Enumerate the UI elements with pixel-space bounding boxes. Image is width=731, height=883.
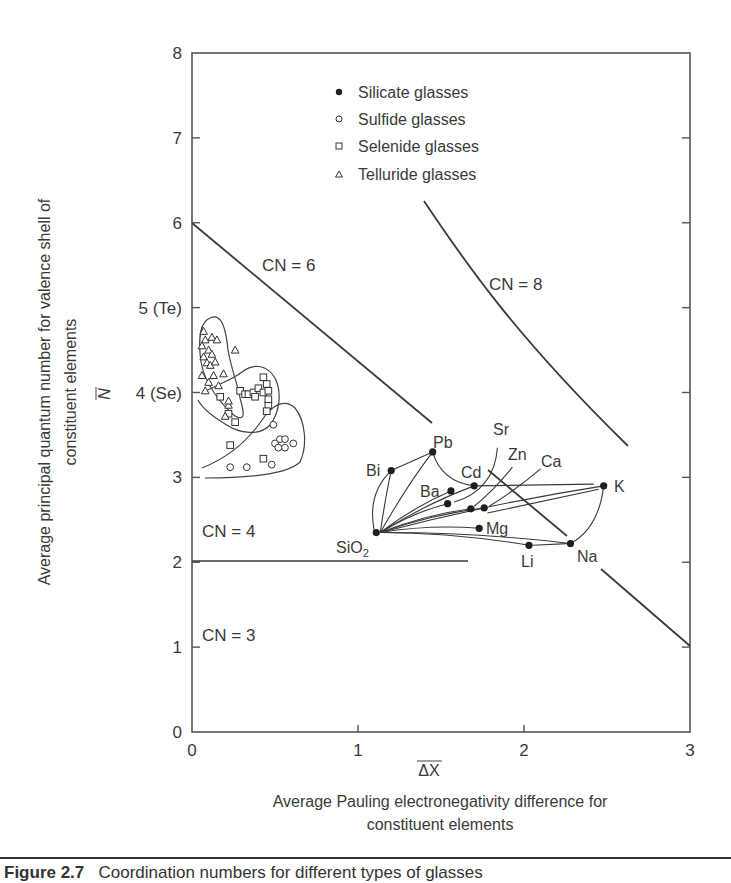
y-tick-label: 8 (173, 44, 182, 63)
y-tick-label: 1 (173, 638, 182, 657)
label-zn: Zn (508, 446, 527, 463)
x-axis-title-line2: constituent elements (367, 816, 514, 833)
region-label-cn6: CN = 6 (262, 256, 315, 275)
legend-label-sulfide: Sulfide glasses (358, 111, 466, 128)
marker-selenide (263, 408, 270, 415)
marker-selenide (227, 442, 234, 449)
x-axis-symbol: ΔX (418, 762, 440, 779)
label-li: Li (521, 553, 533, 570)
y-tick-label: 4 (Se) (136, 384, 182, 403)
marker-selenide (260, 455, 267, 462)
marker-silicate (444, 500, 451, 507)
marker-silicate (476, 525, 483, 532)
marker-silicate (388, 467, 395, 474)
label-sio2: SiO2 (336, 539, 369, 559)
region-labels: CN = 6 CN = 8 CN = 4 CN = 3 (202, 256, 542, 645)
marker-selenide (252, 393, 259, 400)
label-cd: Cd (461, 464, 481, 481)
marker-telluride (220, 370, 228, 377)
region-label-cn3: CN = 3 (202, 626, 255, 645)
marker-sulfide (268, 461, 275, 468)
marker-silicate (373, 529, 380, 536)
y-tick-label: 7 (173, 129, 182, 148)
caption-label: Figure 2.7 (4, 863, 84, 882)
marker-telluride (211, 358, 219, 365)
x-tick-label: 0 (187, 741, 196, 760)
marker-telluride (231, 346, 239, 353)
label-ca: Ca (541, 453, 562, 470)
marker-sulfide (275, 444, 282, 451)
marker-silicate (447, 487, 454, 494)
legend-label-telluride: Telluride glasses (358, 166, 476, 183)
marker-telluride (225, 397, 233, 404)
label-sr: Sr (493, 421, 510, 438)
caption-text: Coordination numbers for different types… (98, 863, 482, 882)
marker-silicate (525, 542, 532, 549)
marker-selenide (260, 374, 267, 381)
label-ba: Ba (420, 483, 440, 500)
marker-sulfide (282, 444, 289, 451)
y-tick-label: 6 (173, 214, 182, 233)
y-axis-title: Average principal quantum number for val… (36, 198, 113, 585)
legend: Silicate glasses Sulfide glasses Selenid… (336, 84, 479, 183)
connector-curve (391, 452, 433, 471)
connector-curve (474, 484, 594, 486)
marker-selenide (265, 388, 272, 395)
legend-marker-silicate (336, 89, 342, 95)
marker-selenide (263, 381, 270, 388)
x-tick-label: 1 (353, 741, 362, 760)
legend-marker-selenide (336, 143, 342, 149)
sulfide-envelope (202, 403, 305, 478)
y-tick-label: 0 (173, 723, 182, 742)
x-tick-label: 3 (685, 741, 694, 760)
legend-marker-sulfide (336, 116, 342, 122)
label-pb: Pb (433, 434, 453, 451)
boundary-cn6-cn4-tail (601, 569, 690, 646)
y-tick-label: 2 (173, 553, 182, 572)
marker-telluride (210, 372, 218, 379)
label-bi: Bi (366, 462, 380, 479)
connector-curve (489, 469, 540, 506)
marker-silicate (567, 540, 574, 547)
marker-silicate (467, 505, 474, 512)
y-tick-label: 3 (173, 468, 182, 487)
x-tick-label: 2 (519, 741, 528, 760)
marker-telluride (215, 382, 223, 389)
marker-silicate (471, 482, 478, 489)
boundary-cn6-cn4-upper (192, 223, 432, 423)
y-axis-title-line2: constituent elements (62, 319, 79, 466)
marker-sulfide (290, 440, 297, 447)
x-axis-title-line1: Average Pauling electronegativity differ… (273, 793, 608, 810)
label-mg: Mg (486, 520, 508, 537)
marker-sulfide (270, 421, 277, 428)
marker-selenide (217, 393, 224, 400)
legend-marker-telluride (336, 171, 343, 177)
y-tick-label: 5 (Te) (139, 299, 182, 318)
legend-label-selenide: Selenide glasses (358, 138, 479, 155)
y-axis-title-line1: Average principal quantum number for val… (36, 198, 53, 585)
marker-sulfide (282, 436, 289, 443)
figure-caption: Figure 2.7 Coordination numbers for diff… (4, 863, 483, 883)
marker-silicate (600, 482, 607, 489)
connector-curve (487, 489, 598, 513)
y-axis-symbol: N (96, 388, 113, 400)
label-k: K (614, 478, 625, 495)
region-label-cn8: CN = 8 (489, 275, 542, 294)
boundary-cn8-cn6 (424, 201, 628, 446)
marker-silicate (481, 504, 488, 511)
region-label-cn4: CN = 4 (202, 522, 255, 541)
marker-selenide (232, 419, 239, 426)
legend-label-silicate: Silicate glasses (358, 84, 468, 101)
marker-telluride (200, 353, 208, 360)
marker-telluride (201, 336, 209, 343)
marker-selenide (265, 396, 272, 403)
marker-sulfide (227, 464, 234, 471)
connector-curve (532, 544, 567, 546)
marker-sulfide (243, 464, 250, 471)
label-na: Na (577, 548, 598, 565)
x-axis-title: ΔX Average Pauling electronegativity dif… (273, 761, 608, 833)
silicate-point-labels: SiO2 Bi Pb Ba Cd Sr Zn Ca Mg Li Na K (336, 421, 625, 570)
